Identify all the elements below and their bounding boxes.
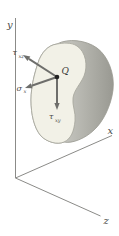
stress-diagram-svg: Q y x z τ xz σ x τ xy xyxy=(0,0,119,236)
tau-xz-subscript: xz xyxy=(19,53,25,59)
tau-xy-subscript: xy xyxy=(55,117,61,124)
z-axis xyxy=(16,178,101,216)
tau-xz-symbol: τ xyxy=(13,48,18,57)
label-sigma-x: σ x xyxy=(17,84,27,94)
point-q-dot xyxy=(55,75,60,80)
figure-canvas: Q y x z τ xz σ x τ xy xyxy=(0,0,119,236)
z-axis-label: z xyxy=(103,215,110,226)
x-axis-label: x xyxy=(108,125,114,136)
y-axis-label: y xyxy=(6,19,13,30)
sigma-x-symbol: σ xyxy=(17,84,23,93)
sigma-x-subscript: x xyxy=(24,88,27,94)
label-tau-xz: τ xz xyxy=(13,48,25,59)
point-q-label: Q xyxy=(62,66,70,76)
tau-xy-symbol: τ xyxy=(49,112,54,121)
